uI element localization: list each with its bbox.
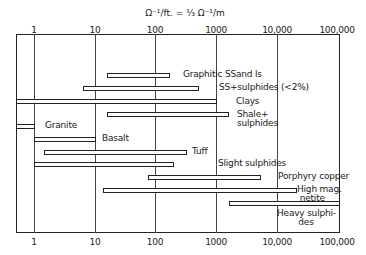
bar-basalt [34,137,96,142]
label-granite: Granite [45,121,77,130]
bar-tuff [44,150,187,155]
axis-unit-label: Ω⁻¹/ft. = ⅓ Ω⁻¹/m [145,8,225,18]
bar-slight-sulphides [34,162,174,167]
gridline-1 [34,34,35,233]
bottom-tick-1000: 1000 [205,237,227,247]
label-slight-sulphides: Slight sulphides [218,159,286,168]
label-heavy-sulphides: Heavy sulphi- des [277,209,336,227]
gridline-1000 [216,34,217,233]
gridline-100 [155,34,156,233]
bottom-tick-10: 10 [90,237,101,247]
bottom-tick-100: 100 [147,237,163,247]
bar-porphyry-copper [148,175,261,180]
bar-high-magnetite [103,188,297,193]
label-porphyry-copper: Porphyry copper [278,172,349,181]
label-graphitic-ss: Graphitic SSand ls [183,70,262,79]
bar-granite [16,124,35,129]
label-clays: Clays [236,97,259,106]
label-basalt: Basalt [102,134,129,143]
gridline-10 [95,34,96,233]
bar-ss-sulphides [83,86,199,91]
bottom-tick-1: 1 [31,237,36,247]
bar-clays [16,99,217,104]
bottom-tick-10000: 10,000 [262,237,292,247]
bottom-tick-100000: 100,000 [319,237,354,247]
conductivity-range-chart: Ω⁻¹/ft. = ⅓ Ω⁻¹/m 1 10 100 1000 10,000 1… [0,0,366,255]
label-ss-sulphides: SS+sulphides (<2%) [219,83,309,92]
bar-shale-sulphides [107,112,229,117]
label-shale-sulphides: Shale+ sulphides [237,110,278,128]
bar-graphitic-ss [107,73,170,78]
label-tuff: Tuff [192,147,207,156]
label-high-magnetite: High mag. netite [297,185,342,203]
